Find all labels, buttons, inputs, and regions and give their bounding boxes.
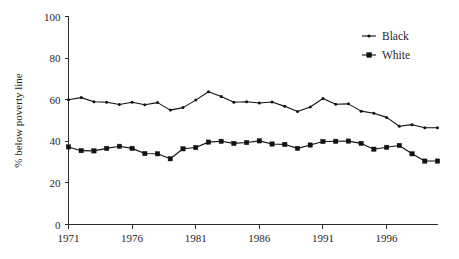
series-line-black <box>69 92 438 128</box>
data-point-black <box>398 125 401 128</box>
legend-label-white: White <box>382 49 410 61</box>
data-point-white <box>346 139 350 143</box>
x-axis-tick-label: 1976 <box>121 232 144 244</box>
poverty-line-chart-figure: 020406080100197119761981198619911996% be… <box>0 0 459 259</box>
data-point-white <box>104 146 108 150</box>
data-point-white <box>397 143 401 147</box>
data-point-white <box>168 157 172 161</box>
data-point-black <box>131 101 134 104</box>
data-point-black <box>436 126 439 129</box>
data-point-black <box>360 110 363 113</box>
data-point-black <box>118 103 121 106</box>
data-point-white <box>359 141 363 145</box>
data-point-black <box>423 126 426 129</box>
legend-label-black: Black <box>382 30 409 42</box>
data-point-white <box>194 145 198 149</box>
y-axis-tick-label: 100 <box>44 11 61 23</box>
data-point-white <box>181 147 185 151</box>
data-point-white <box>117 144 121 148</box>
data-point-black <box>347 102 350 105</box>
data-point-white <box>384 145 388 149</box>
legend-marker-white <box>367 53 372 58</box>
data-point-white <box>321 139 325 143</box>
data-point-black <box>385 116 388 119</box>
data-point-black <box>411 123 414 126</box>
data-point-white <box>435 159 439 163</box>
data-point-black <box>92 100 95 103</box>
data-point-white <box>257 139 261 143</box>
data-point-black <box>182 106 185 109</box>
y-axis-tick-label: 40 <box>50 135 62 147</box>
x-axis-tick-label: 1986 <box>248 232 271 244</box>
series-line-white <box>69 141 438 161</box>
x-axis-tick-label: 1996 <box>376 232 399 244</box>
data-point-white <box>334 139 338 143</box>
data-point-black <box>321 97 324 100</box>
data-point-black <box>169 109 172 112</box>
x-axis-tick-label: 1981 <box>185 232 207 244</box>
data-point-white <box>308 143 312 147</box>
x-axis-tick-label: 1991 <box>312 232 334 244</box>
y-axis-tick-label: 0 <box>55 219 61 231</box>
legend-marker-black <box>367 34 370 37</box>
data-point-black <box>296 110 299 113</box>
data-point-black <box>105 101 108 104</box>
data-point-white <box>244 140 248 144</box>
chart-canvas: 020406080100197119761981198619911996% be… <box>0 0 459 259</box>
data-point-white <box>206 140 210 144</box>
data-point-black <box>372 112 375 115</box>
data-point-black <box>258 102 261 105</box>
data-point-white <box>410 152 414 156</box>
data-point-black <box>220 95 223 98</box>
data-point-white <box>155 152 159 156</box>
x-axis-tick-label: 1971 <box>58 232 80 244</box>
data-point-white <box>66 145 70 149</box>
data-point-black <box>67 98 70 101</box>
data-point-black <box>156 101 159 104</box>
data-point-black <box>207 90 210 93</box>
data-point-black <box>232 101 235 104</box>
data-point-black <box>245 100 248 103</box>
data-point-white <box>283 142 287 146</box>
data-point-white <box>92 149 96 153</box>
y-axis-tick-label: 60 <box>50 94 62 106</box>
data-point-white <box>79 148 83 152</box>
data-point-white <box>295 146 299 150</box>
data-point-black <box>283 105 286 108</box>
data-point-white <box>270 142 274 146</box>
data-point-white <box>423 159 427 163</box>
y-axis-tick-label: 80 <box>50 52 62 64</box>
data-point-black <box>194 99 197 102</box>
data-point-white <box>372 147 376 151</box>
data-point-black <box>271 100 274 103</box>
chart-axes <box>69 17 438 225</box>
data-point-white <box>143 151 147 155</box>
y-axis-tick-label: 20 <box>50 177 62 189</box>
data-point-white <box>219 139 223 143</box>
data-point-white <box>232 141 236 145</box>
data-point-black <box>143 103 146 106</box>
data-point-black <box>80 96 83 99</box>
data-point-black <box>309 105 312 108</box>
data-point-white <box>130 146 134 150</box>
data-point-black <box>334 103 337 106</box>
y-axis-title: % below poverty line <box>12 73 24 168</box>
